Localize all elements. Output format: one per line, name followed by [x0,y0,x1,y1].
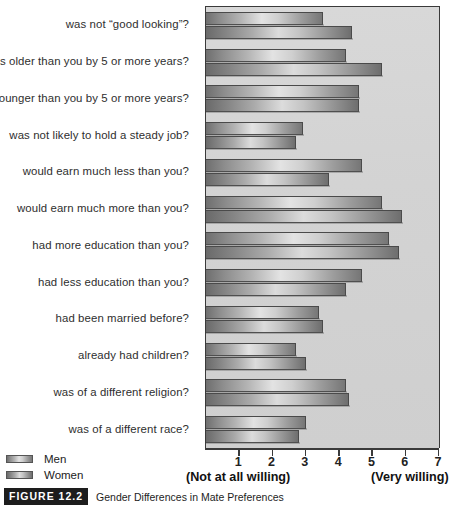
bar-women-5 [206,210,402,223]
bar-women-10 [206,393,349,406]
category-label-4: would earn much less than you? [23,165,189,177]
category-label-6: had more education than you? [32,239,189,251]
x-tick-label-2: 2 [262,455,282,469]
figure-caption-tag: FIGURE 12.2 [4,488,88,505]
bar-women-0 [206,26,352,39]
bar-men-0 [206,12,323,25]
bar-men-4 [206,159,362,172]
category-label-7: had less education than you? [38,276,189,288]
category-label-5: would earn much more than you? [17,202,189,214]
bar-women-2 [206,99,359,112]
legend: Men Women [6,452,83,484]
axis-left-anchor-label: (Not at all willing) [186,470,290,484]
bar-men-3 [206,122,303,135]
bar-women-11 [206,430,299,443]
x-tick-label-3: 3 [295,455,315,469]
axis-right-anchor-label: (Very willing) [371,470,449,484]
bar-men-11 [206,416,306,429]
legend-item-women: Women [6,468,83,482]
legend-item-men: Men [6,452,83,466]
bar-women-4 [206,173,329,186]
category-label-3: was not likely to hold a steady job? [9,129,189,141]
x-tick-label-1: 1 [228,455,248,469]
category-label-8: had been married before? [56,312,189,324]
bar-men-10 [206,379,346,392]
x-axis [205,448,439,450]
bar-women-3 [206,136,296,149]
plot-area [205,6,440,448]
legend-label-men: Men [44,453,66,465]
bar-men-9 [206,343,296,356]
legend-swatch-men [6,455,33,463]
bar-men-8 [206,306,319,319]
category-label-0: was not “good looking”? [66,18,189,30]
category-label-1: was older than you by 5 or more years? [0,55,189,67]
bar-women-8 [206,320,323,333]
bar-men-6 [206,232,389,245]
bar-women-1 [206,63,382,76]
bar-men-7 [206,269,362,282]
category-label-list: was not “good looking”?was older than yo… [0,6,196,447]
x-tick-label-5: 5 [361,455,381,469]
legend-swatch-women [6,471,33,479]
category-label-2: was younger than you by 5 or more years? [0,92,189,104]
x-tick-label-6: 6 [395,455,415,469]
figure-caption-text: Gender Differences in Mate Preferences [96,491,284,503]
category-label-9: already had children? [78,349,189,361]
x-tick-label-4: 4 [328,455,348,469]
figure-caption: FIGURE 12.2 Gender Differences in Mate P… [4,490,284,503]
x-tick-label-7: 7 [428,455,448,469]
category-label-11: was of a different race? [68,423,189,435]
legend-label-women: Women [44,469,83,481]
bar-women-9 [206,357,306,370]
category-label-10: was of a different religion? [53,386,189,398]
bar-women-6 [206,246,399,259]
bar-men-5 [206,196,382,209]
bar-women-7 [206,283,346,296]
bar-men-2 [206,85,359,98]
bar-men-1 [206,49,346,62]
